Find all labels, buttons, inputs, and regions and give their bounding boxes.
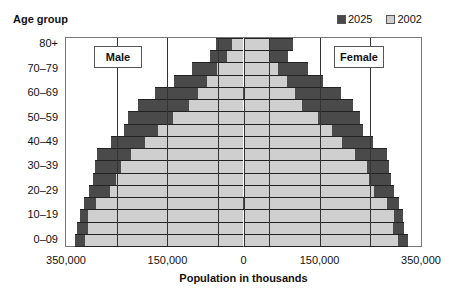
legend-label-2025: 2025 xyxy=(348,13,372,25)
x-tick-label: 350,000 xyxy=(386,254,456,266)
y-tick-label: 30–39 xyxy=(0,159,58,171)
gridline xyxy=(320,38,321,246)
bar-male-2002 xyxy=(88,209,244,222)
y-tick-label: 40–49 xyxy=(0,135,58,147)
bar-female-2002 xyxy=(244,62,279,75)
bar-male-2002 xyxy=(96,197,244,210)
bar-female-2002 xyxy=(244,50,270,63)
legend-swatch-light-icon xyxy=(386,15,395,24)
bar-male-2002 xyxy=(88,222,244,235)
plot-area: MaleFemale xyxy=(65,37,422,247)
bar-male-2002 xyxy=(207,75,243,88)
gridline xyxy=(117,38,118,246)
legend-label-2002: 2002 xyxy=(397,13,421,25)
male-label: Male xyxy=(94,46,142,68)
bar-female-2002 xyxy=(244,234,399,247)
y-tick-label: 20–29 xyxy=(0,184,58,196)
gridline xyxy=(244,38,245,246)
bar-female-2002 xyxy=(244,160,368,173)
bar-male-2002 xyxy=(116,173,244,186)
bar-male-2002 xyxy=(217,62,244,75)
bar-female-2002 xyxy=(244,136,343,149)
x-tick-label: 350,000 xyxy=(31,254,101,266)
legend-item-2002: 2002 xyxy=(386,13,421,25)
bar-female-2002 xyxy=(244,99,303,112)
bar-male-2002 xyxy=(110,185,243,198)
gridline xyxy=(269,38,270,246)
gridline xyxy=(218,38,219,246)
bar-male-2002 xyxy=(198,87,244,100)
legend: 2025 2002 xyxy=(337,13,422,25)
y-axis-title: Age group xyxy=(13,13,68,25)
bar-male-2002 xyxy=(85,234,244,247)
x-tick-label: 150,000 xyxy=(132,254,202,266)
female-label: Female xyxy=(334,46,384,68)
y-tick-label: 0–09 xyxy=(0,233,58,245)
bar-male-2002 xyxy=(227,50,244,63)
bar-male-2002 xyxy=(232,38,243,51)
legend-item-2025: 2025 xyxy=(337,13,372,25)
gridline xyxy=(167,38,168,246)
bar-male-2002 xyxy=(131,148,244,161)
bar-male-2002 xyxy=(145,136,244,149)
gridline xyxy=(370,38,371,246)
bar-male-2002 xyxy=(173,111,244,124)
bar-female-2002 xyxy=(244,111,319,124)
bar-female-2002 xyxy=(244,173,370,186)
bar-female-2002 xyxy=(244,75,288,88)
bar-female-2002 xyxy=(244,148,356,161)
x-tick-label: 0 xyxy=(209,254,279,266)
y-tick-label: 50–59 xyxy=(0,111,58,123)
y-tick-label: 80+ xyxy=(0,37,58,49)
bar-male-2002 xyxy=(189,99,244,112)
bar-male-2002 xyxy=(158,124,244,137)
x-tick-label: 150,000 xyxy=(285,254,355,266)
x-axis-title: Population in thousands xyxy=(0,272,459,284)
legend-swatch-dark-icon xyxy=(337,15,346,24)
y-tick-label: 70–79 xyxy=(0,62,58,74)
bar-female-2002 xyxy=(244,185,375,198)
bar-female-2002 xyxy=(244,197,388,210)
y-tick-label: 60–69 xyxy=(0,86,58,98)
bar-male-2002 xyxy=(121,160,244,173)
bar-female-2002 xyxy=(244,38,270,51)
y-tick-label: 10–19 xyxy=(0,208,58,220)
